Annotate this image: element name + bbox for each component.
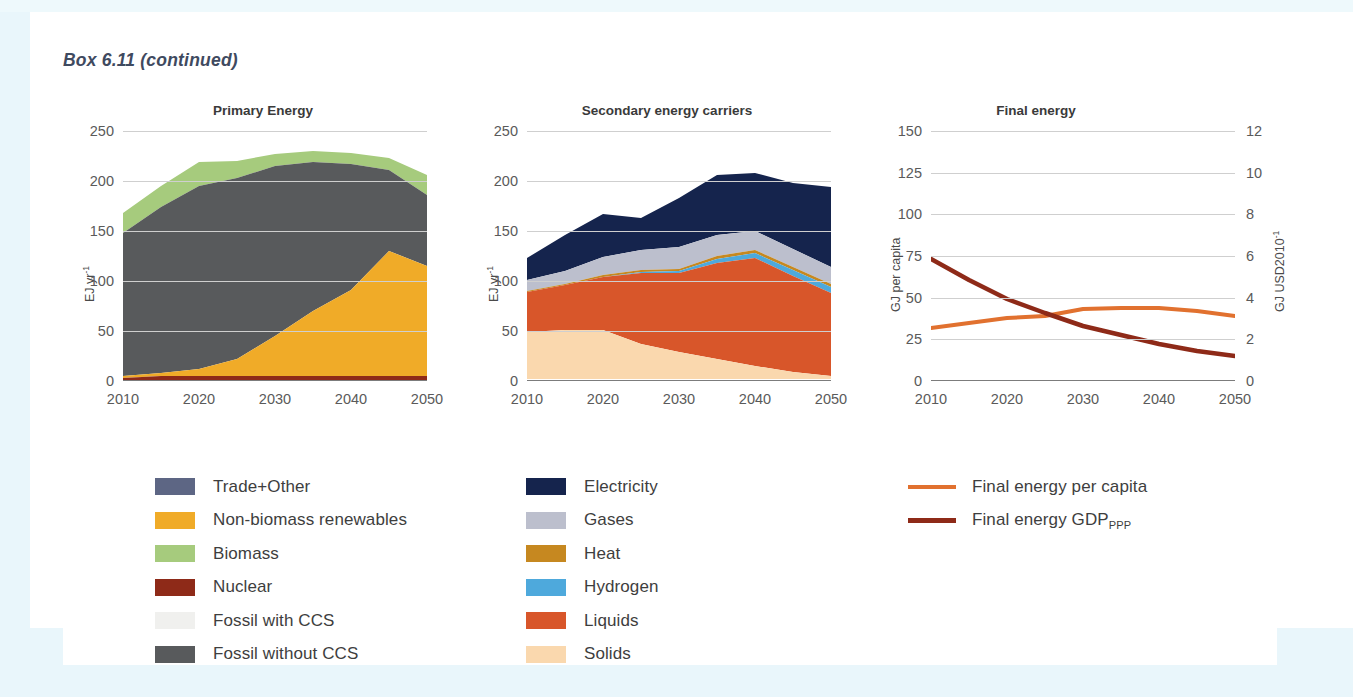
- plot-inner-primary-energy: [123, 131, 427, 381]
- gridline: [527, 181, 831, 182]
- gridline: [123, 181, 427, 182]
- x-tick: 2030: [259, 391, 291, 407]
- legend-swatch-electricity: [526, 478, 566, 495]
- legend-line-final-energy-per-capita: [908, 485, 956, 489]
- chart-final-energy: Final energy GJ per capita GJ USD2010-1: [871, 97, 1277, 427]
- legend-swatch-nuclear: [155, 579, 195, 596]
- chart-title-primary-energy: Primary Energy: [63, 103, 463, 118]
- y-tick-right: 2: [1246, 331, 1254, 347]
- y-tick-right: 10: [1246, 165, 1262, 181]
- x-tick: 2050: [1219, 391, 1251, 407]
- gridline: [931, 131, 1235, 132]
- legend-final-energy: Final energy per capita Final energy GDP…: [908, 470, 1147, 537]
- gridline: [931, 339, 1235, 340]
- gridline: [527, 131, 831, 132]
- legend-label-nuclear: Nuclear: [213, 577, 272, 597]
- x-tick: 2010: [511, 391, 543, 407]
- y-tick: 50: [906, 290, 922, 306]
- x-tick: 2050: [411, 391, 443, 407]
- legend-item-heat[interactable]: Heat: [526, 537, 659, 571]
- figure-panel: Primary Energy EJ yr-1: [63, 97, 1277, 665]
- y-tick: 250: [90, 123, 114, 139]
- y-tick: 75: [906, 248, 922, 264]
- x-tick: 2040: [1143, 391, 1175, 407]
- area-chart-primary-energy: [123, 131, 427, 381]
- gridline: [123, 281, 427, 282]
- y-tick: 100: [898, 206, 922, 222]
- legend-swatch-heat: [526, 545, 566, 562]
- y-tick: 25: [906, 331, 922, 347]
- legend-item-nuclear[interactable]: Nuclear: [155, 571, 407, 605]
- legend-label-liquids: Liquids: [584, 611, 639, 631]
- gridline: [123, 231, 427, 232]
- legend-item-electricity[interactable]: Electricity: [526, 470, 659, 504]
- y-tick: 0: [106, 373, 114, 389]
- legend-item-fossil-without-ccs[interactable]: Fossil without CCS: [155, 638, 407, 672]
- gridline: [931, 298, 1235, 299]
- legend-item-fossil-with-ccs[interactable]: Fossil with CCS: [155, 604, 407, 638]
- y-tick: 0: [510, 373, 518, 389]
- x-tick: 2020: [183, 391, 215, 407]
- legend-swatch-non-biomass-renewables: [155, 512, 195, 529]
- page-root: Box 6.11 (continued) Primary Energy EJ y…: [0, 0, 1353, 697]
- legend-item-final-energy-gdp-ppp[interactable]: Final energy GDPPPP: [908, 504, 1147, 538]
- x-axis-secondary-energy: [527, 380, 831, 381]
- legend-label-fossil-without-ccs: Fossil without CCS: [213, 644, 358, 664]
- y-tick: 250: [494, 123, 518, 139]
- x-axis-primary-energy: [123, 380, 427, 381]
- page-top-strip: [0, 0, 1353, 12]
- legend-item-trade-other[interactable]: Trade+Other: [155, 470, 407, 504]
- gridline: [527, 231, 831, 232]
- legend-item-liquids[interactable]: Liquids: [526, 604, 659, 638]
- x-tick: 2040: [739, 391, 771, 407]
- x-tick: 2020: [991, 391, 1023, 407]
- gridline: [931, 256, 1235, 257]
- legend-label-solids: Solids: [584, 644, 631, 664]
- legend-item-non-biomass-renewables[interactable]: Non-biomass renewables: [155, 504, 407, 538]
- y-axis-right-label-text: GJ USD2010: [1273, 238, 1287, 312]
- legend-item-final-energy-per-capita[interactable]: Final energy per capita: [908, 470, 1147, 504]
- y-tick: 200: [90, 173, 114, 189]
- gridline: [123, 331, 427, 332]
- legend-label-final-energy-gdp-text: Final energy GDP: [972, 510, 1109, 529]
- x-axis-final-energy: [931, 380, 1235, 381]
- y-tick-right: 6: [1246, 248, 1254, 264]
- x-tick: 2030: [1067, 391, 1099, 407]
- gridline: [931, 214, 1235, 215]
- legend-swatch-solids: [526, 646, 566, 663]
- legend-item-biomass[interactable]: Biomass: [155, 537, 407, 571]
- legend-label-heat: Heat: [584, 544, 620, 564]
- y-axis-right-label-exponent: -1: [1271, 231, 1281, 239]
- legend-item-gases[interactable]: Gases: [526, 504, 659, 538]
- y-axis-label-final-energy-right: GJ USD2010-1: [1271, 231, 1287, 312]
- y-tick: 50: [502, 323, 518, 339]
- legend-label-gases: Gases: [584, 510, 634, 530]
- x-tick: 2040: [335, 391, 367, 407]
- y-tick: 200: [494, 173, 518, 189]
- y-tick-right: 12: [1246, 123, 1262, 139]
- legend-item-solids[interactable]: Solids: [526, 638, 659, 672]
- y-tick: 150: [898, 123, 922, 139]
- y-tick: 150: [90, 223, 114, 239]
- chart-primary-energy: Primary Energy EJ yr-1: [63, 97, 463, 427]
- legend-swatch-gases: [526, 512, 566, 529]
- legend-secondary-energy-carriers: Electricity Gases Heat Hydrogen Liquids …: [526, 470, 659, 671]
- legend-item-hydrogen[interactable]: Hydrogen: [526, 571, 659, 605]
- plot-inner-secondary-energy: [527, 131, 831, 381]
- y-tick: 150: [494, 223, 518, 239]
- legend-label-trade-other: Trade+Other: [213, 477, 310, 497]
- box-title: Box 6.11 (continued): [63, 50, 238, 71]
- legend-label-biomass: Biomass: [213, 544, 279, 564]
- gridline: [527, 281, 831, 282]
- y-tick-right: 8: [1246, 206, 1254, 222]
- legend-line-final-energy-gdp-ppp: [908, 518, 956, 523]
- legend-label-non-biomass-renewables: Non-biomass renewables: [213, 510, 407, 530]
- y-tick-right: 0: [1246, 373, 1254, 389]
- area-chart-secondary-energy: [527, 131, 831, 381]
- x-tick: 2050: [815, 391, 847, 407]
- x-tick: 2020: [587, 391, 619, 407]
- chart-title-final-energy: Final energy: [871, 103, 1201, 118]
- x-tick: 2010: [915, 391, 947, 407]
- legend-label-final-energy-gdp-ppp: Final energy GDPPPP: [972, 510, 1131, 531]
- y-tick: 100: [90, 273, 114, 289]
